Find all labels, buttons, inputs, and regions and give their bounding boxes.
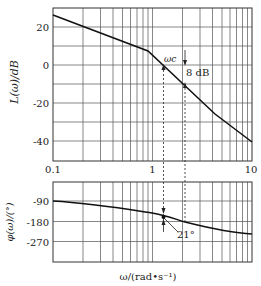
phase-plot: 21° -90 -180 -270 φ(ω)/(°) ω/(rad•s⁻¹): [4, 182, 252, 282]
phase-margin-up-arrow-icon: [162, 219, 166, 225]
phase-margin-leader: [164, 218, 178, 232]
phase-margin-label: 21°: [177, 229, 195, 240]
magnitude-axis-label: L(ω)/dB: [8, 60, 21, 105]
y-tick-m40: -40: [33, 136, 49, 147]
x-tick-0-1: 0.1: [45, 164, 61, 175]
db-margin-label: 8 dB: [186, 67, 209, 78]
frequency-axis-label: ω/(rad•s⁻¹): [120, 271, 177, 282]
magnitude-grid: [53, 8, 252, 161]
wc-label: ωc: [164, 54, 176, 64]
p-tick-m90: -90: [33, 196, 49, 207]
y-tick-20: 20: [36, 22, 49, 33]
x-tick-10: 10: [245, 164, 258, 175]
magnitude-plot: ωc 8 dB 20 0 -20 -40 L(ω)/dB 0.1 1 10: [8, 8, 257, 224]
phase-margin-down-arrow-icon: [162, 208, 166, 214]
x-tick-1: 1: [149, 164, 155, 175]
bode-plot: ωc 8 dB 20 0 -20 -40 L(ω)/dB 0.1 1 10: [0, 0, 261, 286]
phase-grid: [53, 182, 252, 262]
p-tick-m180: -180: [27, 217, 49, 228]
y-tick-0: 0: [43, 60, 49, 71]
p-tick-m270: -270: [27, 237, 49, 248]
y-tick-m20: -20: [33, 98, 49, 109]
phase-axis-label: φ(ω)/(°): [4, 202, 15, 241]
